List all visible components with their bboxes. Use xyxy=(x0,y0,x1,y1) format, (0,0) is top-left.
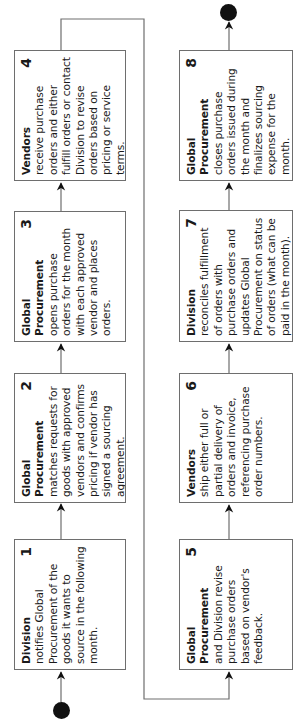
step-6-box: 6 Vendors ship either full or partial de… xyxy=(179,373,293,503)
step-number: 2 xyxy=(19,381,33,391)
step-actor: Vendors xyxy=(20,57,33,175)
step-number: 6 xyxy=(184,381,198,391)
end-terminal-icon xyxy=(220,4,237,21)
step-description: notifies Global Procurement of the goods… xyxy=(33,546,100,664)
step-description: closes purchase orders issued during the… xyxy=(212,57,292,175)
step-number: 3 xyxy=(19,219,33,229)
step-description: reconciles fulfillment of orders with pu… xyxy=(198,217,292,336)
step-number: 5 xyxy=(184,547,198,557)
step-1-box: 1 Division notifies Global Procurement o… xyxy=(14,539,126,670)
step-number: 1 xyxy=(19,547,33,557)
process-flow-diagram: 1 Division notifies Global Procurement o… xyxy=(0,0,305,723)
step-actor: Global Procurement xyxy=(20,218,47,336)
step-5-box: 5 Global Procurement and Division revise… xyxy=(179,539,293,670)
step-description: receive purchase orders and either fulfi… xyxy=(33,57,126,175)
step-description: opens purchase orders for the month with… xyxy=(47,218,114,336)
step-description: matches requests for goods with approved… xyxy=(47,380,126,497)
step-2-box: 2 Global Procurement matches requests fo… xyxy=(14,373,126,503)
step-3-box: 3 Global Procurement opens purchase orde… xyxy=(14,211,126,342)
step-7-box: 7 Division reconciles fulfillment of ord… xyxy=(179,210,293,342)
step-number: 7 xyxy=(184,218,198,228)
start-terminal-icon xyxy=(53,702,70,719)
step-actor: Division xyxy=(185,217,198,336)
step-4-box: 4 Vendors receive purchase orders and ei… xyxy=(14,50,126,181)
step-actor: Global Procurement xyxy=(185,546,212,664)
step-description: ship either full or partial delivery of … xyxy=(198,380,265,497)
step-description: and Division revise purchase orders base… xyxy=(212,546,266,664)
step-actor: Global Procurement xyxy=(185,57,212,175)
step-actor: Division xyxy=(20,546,33,664)
step-number: 4 xyxy=(19,58,33,68)
step-actor: Global Procurement xyxy=(20,380,47,497)
step-actor: Vendors xyxy=(185,380,198,497)
step-number: 8 xyxy=(184,58,198,68)
step-8-box: 8 Global Procurement closes purchase ord… xyxy=(179,50,293,181)
